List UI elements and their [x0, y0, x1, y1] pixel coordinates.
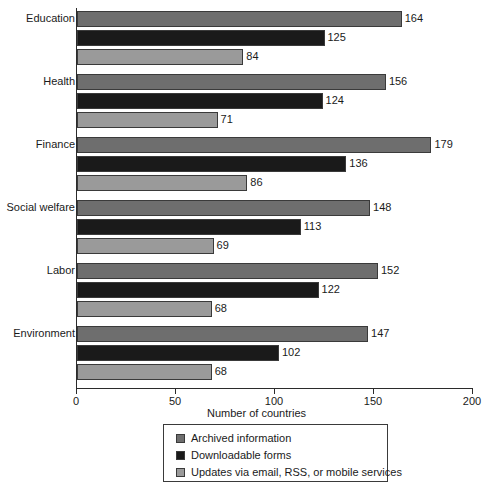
- x-axis-tick: [274, 388, 275, 394]
- bar: [77, 74, 386, 90]
- bar-value-label: 86: [250, 176, 262, 189]
- bar-value-label: 147: [371, 327, 389, 340]
- bar: [77, 112, 218, 128]
- x-axis-title: Number of countries: [0, 407, 489, 420]
- bar: [77, 345, 279, 361]
- legend-item: Downloadable forms: [176, 448, 387, 463]
- chart-legend: Archived information Downloadable forms …: [163, 424, 388, 482]
- bar-value-label: 156: [389, 75, 407, 88]
- bar: [77, 263, 378, 279]
- bar-value-label: 69: [217, 239, 229, 252]
- bar-value-label: 71: [221, 113, 233, 126]
- bar-value-label: 152: [381, 264, 399, 277]
- bar-value-label: 84: [246, 50, 258, 63]
- plot-area: 050100150200 164125841561247117913686148…: [0, 0, 489, 394]
- legend-item-label: Updates via email, RSS, or mobile servic…: [191, 466, 402, 479]
- legend-swatch-icon: [176, 468, 185, 477]
- legend-item-label: Downloadable forms: [191, 449, 291, 462]
- bar: [77, 93, 323, 109]
- category-label: Education: [26, 12, 75, 25]
- bar: [77, 282, 319, 298]
- x-axis-tick: [373, 388, 374, 394]
- bar: [77, 364, 212, 380]
- bar-value-label: 68: [215, 365, 227, 378]
- x-axis-title-text: Number of countries: [207, 407, 306, 420]
- bar-value-label: 125: [328, 31, 346, 44]
- bar: [77, 30, 325, 46]
- bar: [77, 219, 301, 235]
- legend-swatch-icon: [176, 434, 185, 443]
- bar: [77, 301, 212, 317]
- x-axis-tick: [175, 388, 176, 394]
- bar-value-label: 179: [434, 138, 452, 151]
- legend-item-label: Archived information: [191, 432, 291, 445]
- x-axis-tick: [76, 388, 77, 394]
- legend-item: Archived information: [176, 431, 387, 446]
- bar-chart: 050100150200 164125841561247117913686148…: [0, 0, 489, 494]
- bar-value-label: 164: [405, 12, 423, 25]
- bar-value-label: 148: [373, 201, 391, 214]
- legend-swatch-icon: [176, 451, 185, 460]
- x-axis-tick: [472, 388, 473, 394]
- category-label: Health: [43, 75, 75, 88]
- bar-value-label: 124: [326, 94, 344, 107]
- category-label: Labor: [47, 264, 75, 277]
- bar-value-label: 113: [304, 220, 322, 233]
- bar-value-label: 136: [349, 157, 367, 170]
- bar: [77, 175, 247, 191]
- bar: [77, 137, 431, 153]
- bar: [77, 238, 214, 254]
- bar: [77, 11, 402, 27]
- bar: [77, 200, 370, 216]
- category-label: Social welfare: [7, 201, 75, 214]
- bar: [77, 326, 368, 342]
- category-label: Environment: [13, 327, 75, 340]
- bar: [77, 156, 346, 172]
- bar-value-label: 68: [215, 302, 227, 315]
- bar-value-label: 102: [282, 346, 300, 359]
- legend-item: Updates via email, RSS, or mobile servic…: [176, 465, 387, 480]
- bar-value-label: 122: [322, 283, 340, 296]
- bar: [77, 49, 243, 65]
- category-label: Finance: [36, 138, 75, 151]
